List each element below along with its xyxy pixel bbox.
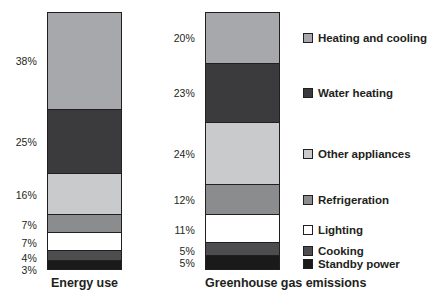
segment-value-label: 25% xyxy=(0,110,43,175)
bar-stack-energy-use xyxy=(47,12,122,270)
bar-segment xyxy=(48,251,121,261)
segment-value-label: 12% xyxy=(158,185,201,216)
bar-segment xyxy=(206,64,279,123)
segment-value-label: 5% xyxy=(158,257,201,270)
legend-item-label: Heating and cooling xyxy=(318,32,427,44)
legend-item[interactable]: Other appliances xyxy=(303,147,411,161)
segment-value-label: 5% xyxy=(158,244,201,257)
bar-segment xyxy=(206,243,279,256)
bar-segment xyxy=(206,13,279,64)
legend-swatch-icon xyxy=(303,149,313,159)
legend-item-label: Refrigeration xyxy=(318,194,389,206)
segment-value-label: 11% xyxy=(158,216,201,244)
stacked-bar-chart: 38%25%16%7%7%4%3% 20%23%24%12%11%5%5% En… xyxy=(0,0,448,305)
legend-item[interactable]: Lighting xyxy=(303,223,363,237)
bar-segment xyxy=(206,256,279,269)
category-label-greenhouse-gas-emissions: Greenhouse gas emissions xyxy=(205,276,280,290)
bar-segment xyxy=(206,123,279,184)
legend-item[interactable]: Standby power xyxy=(303,257,400,271)
legend-swatch-icon xyxy=(303,259,313,269)
bar-segment xyxy=(48,233,121,251)
legend-item-label: Cooking xyxy=(318,245,364,257)
legend-item[interactable]: Water heating xyxy=(303,86,393,100)
legend-item-label: Lighting xyxy=(318,224,363,236)
segment-value-label: 24% xyxy=(158,123,201,185)
legend-swatch-icon xyxy=(303,88,313,98)
segment-value-label: 7% xyxy=(0,216,43,234)
legend-swatch-icon xyxy=(303,195,313,205)
chart-legend: Heating and coolingWater heatingOther ap… xyxy=(303,12,448,270)
legend-item[interactable]: Refrigeration xyxy=(303,193,389,207)
bar-group-energy-use xyxy=(47,12,122,270)
legend-item-label: Water heating xyxy=(318,87,393,99)
legend-swatch-icon xyxy=(303,225,313,235)
bar-segment xyxy=(48,215,121,233)
legend-item[interactable]: Cooking xyxy=(303,244,364,258)
segment-value-label: 7% xyxy=(0,234,43,252)
bar-segment xyxy=(206,215,279,243)
segment-value-label: 23% xyxy=(158,64,201,123)
category-label-energy-use: Energy use xyxy=(47,276,122,290)
value-label-column-energy-use: 38%25%16%7%7%4%3% xyxy=(0,12,43,270)
legend-swatch-icon xyxy=(303,246,313,256)
legend-item-label: Standby power xyxy=(318,258,400,270)
bar-segment xyxy=(206,185,279,216)
segment-value-label: 38% xyxy=(0,12,43,110)
bar-stack-greenhouse-gas-emissions xyxy=(205,12,280,270)
bar-segment xyxy=(48,174,121,215)
bar-group-greenhouse-gas-emissions xyxy=(205,12,280,270)
bar-segment xyxy=(48,110,121,174)
value-label-column-greenhouse-gas-emissions: 20%23%24%12%11%5%5% xyxy=(158,12,201,270)
segment-value-label: 16% xyxy=(0,175,43,216)
segment-value-label: 3% xyxy=(0,264,43,276)
legend-item[interactable]: Heating and cooling xyxy=(303,31,427,45)
segment-value-label: 4% xyxy=(0,252,43,264)
legend-swatch-icon xyxy=(303,33,313,43)
bar-segment xyxy=(48,261,121,269)
legend-item-label: Other appliances xyxy=(318,148,411,160)
segment-value-label: 20% xyxy=(158,12,201,64)
bar-segment xyxy=(48,13,121,110)
